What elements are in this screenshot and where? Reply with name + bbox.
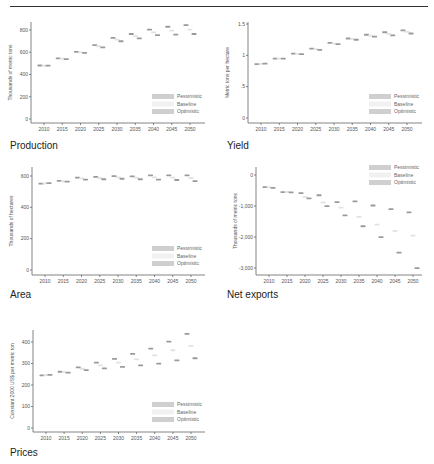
chart-svg: 0-1,000-2,000-3,000201020152020202520302… bbox=[217, 162, 434, 292]
x-tick-label: 2010 bbox=[255, 126, 266, 132]
legend-label-baseline: Baseline bbox=[177, 409, 196, 415]
x-tick-label: 2035 bbox=[131, 435, 142, 441]
marker-optimistic bbox=[66, 372, 71, 374]
legend-swatch-optimistic bbox=[152, 261, 174, 266]
marker-baseline bbox=[170, 177, 175, 179]
marker-optimistic bbox=[184, 24, 189, 26]
y-tick-label: 600 bbox=[21, 173, 30, 179]
marker-optimistic bbox=[317, 194, 322, 196]
x-tick-label: 2010 bbox=[39, 278, 50, 284]
marker-pessimistic bbox=[130, 353, 135, 355]
x-tick-label: 2015 bbox=[57, 126, 68, 132]
chart-caption: Prices bbox=[10, 447, 38, 458]
legend-swatch-pessimistic bbox=[369, 94, 391, 99]
marker-baseline bbox=[116, 362, 121, 364]
chart-net-exports: 0-1,000-2,000-3,000201020152020202520302… bbox=[217, 162, 434, 317]
marker-pessimistic bbox=[325, 205, 330, 207]
legend-swatch-pessimistic bbox=[152, 94, 174, 99]
x-tick-label: 2040 bbox=[365, 126, 376, 132]
marker-pessimistic bbox=[193, 180, 198, 182]
marker-baseline bbox=[321, 201, 326, 203]
marker-baseline bbox=[134, 177, 139, 179]
marker-pessimistic bbox=[94, 362, 99, 364]
marker-pessimistic bbox=[379, 236, 384, 238]
chart-area: 0200400600201020152020202520302035204020… bbox=[0, 162, 217, 317]
x-tick-label: 2025 bbox=[94, 278, 105, 284]
marker-pessimistic bbox=[148, 348, 153, 350]
x-tick-label: 2020 bbox=[299, 278, 310, 284]
marker-baseline bbox=[303, 196, 308, 198]
chart-caption: Yield bbox=[227, 140, 249, 151]
x-tick-label: 2020 bbox=[76, 278, 87, 284]
x-tick-label: 2045 bbox=[383, 126, 394, 132]
x-tick-label: 2020 bbox=[292, 126, 303, 132]
legend-swatch-baseline bbox=[369, 173, 391, 178]
marker-optimistic bbox=[335, 201, 340, 203]
marker-pessimistic bbox=[155, 34, 160, 36]
legend-swatch-baseline bbox=[369, 102, 391, 107]
marker-pessimistic bbox=[192, 33, 197, 35]
marker-optimistic bbox=[111, 37, 116, 39]
y-tick-label: 0 bbox=[25, 116, 28, 122]
y-tick-label: 200 bbox=[22, 382, 31, 388]
x-tick-label: 2015 bbox=[274, 126, 285, 132]
marker-baseline bbox=[151, 31, 156, 33]
x-tick-label: 2025 bbox=[95, 435, 106, 441]
y-tick-label: 100 bbox=[22, 403, 31, 409]
legend-swatch-baseline bbox=[152, 102, 174, 107]
marker-pessimistic bbox=[281, 58, 286, 60]
y-axis-label: Thousands of metric tons bbox=[232, 192, 238, 249]
marker-pessimistic bbox=[289, 192, 294, 194]
chart-svg: 0.511.5201020152020202520302035204020452… bbox=[217, 10, 434, 140]
y-tick-label: -3,000 bbox=[239, 265, 253, 271]
marker-optimistic bbox=[382, 31, 387, 33]
marker-pessimistic bbox=[185, 333, 190, 335]
y-tick-label: 800 bbox=[20, 27, 29, 33]
y-tick-label: 1 bbox=[242, 52, 245, 58]
y-tick-label: 300 bbox=[22, 360, 31, 366]
marker-baseline bbox=[375, 224, 380, 226]
x-tick-label: 2010 bbox=[40, 435, 51, 441]
marker-baseline bbox=[189, 177, 194, 179]
marker-optimistic bbox=[353, 201, 358, 203]
x-tick-label: 2035 bbox=[130, 126, 141, 132]
marker-optimistic bbox=[299, 192, 304, 194]
marker-pessimistic bbox=[64, 58, 69, 60]
marker-optimistic bbox=[102, 367, 107, 369]
y-axis-label: Thousands of hectares bbox=[8, 195, 14, 246]
legend-swatch-optimistic bbox=[369, 180, 391, 185]
x-tick-label: 2040 bbox=[371, 278, 382, 284]
marker-optimistic bbox=[138, 364, 143, 366]
x-tick-label: 2010 bbox=[38, 126, 49, 132]
marker-pessimistic bbox=[409, 33, 414, 35]
marker-pessimistic bbox=[137, 38, 142, 40]
legend-label-pessimistic: Pessimistic bbox=[177, 93, 203, 99]
marker-optimistic bbox=[185, 174, 190, 176]
legend-label-optimistic: Optimistic bbox=[177, 416, 199, 422]
marker-baseline bbox=[411, 235, 416, 237]
legend-label-optimistic: Optimistic bbox=[394, 108, 416, 114]
marker-optimistic bbox=[407, 211, 412, 213]
marker-baseline bbox=[115, 39, 120, 41]
x-tick-label: 2050 bbox=[401, 126, 412, 132]
marker-pessimistic bbox=[47, 182, 52, 184]
x-tick-label: 2040 bbox=[149, 435, 160, 441]
x-tick-label: 2030 bbox=[111, 126, 122, 132]
marker-optimistic bbox=[147, 29, 152, 31]
marker-pessimistic bbox=[336, 43, 341, 45]
marker-pessimistic bbox=[361, 225, 366, 227]
marker-optimistic bbox=[401, 29, 406, 31]
chart-caption: Area bbox=[10, 289, 31, 300]
x-tick-label: 2040 bbox=[148, 126, 159, 132]
legend-label-baseline: Baseline bbox=[177, 253, 196, 259]
legend-swatch-optimistic bbox=[152, 109, 174, 114]
marker-pessimistic bbox=[173, 34, 178, 36]
marker-pessimistic bbox=[46, 65, 51, 67]
marker-pessimistic bbox=[120, 178, 125, 180]
x-tick-label: 2045 bbox=[166, 126, 177, 132]
x-tick-label: 2030 bbox=[328, 126, 339, 132]
marker-pessimistic bbox=[83, 179, 88, 181]
chart-svg: 0100200300400201020152020202520302035204… bbox=[0, 318, 217, 448]
legend-swatch-pessimistic bbox=[152, 246, 174, 251]
x-tick-label: 2010 bbox=[263, 278, 274, 284]
